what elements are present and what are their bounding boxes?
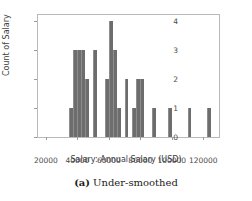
y-tick-label: 3: [164, 45, 178, 54]
y-tick-mark: [34, 21, 37, 22]
caption-text: Under-smoothed: [93, 177, 178, 188]
x-tick-mark: [109, 137, 110, 140]
figure-caption: (a)Under-smoothed: [0, 177, 252, 188]
y-tick-mark: [34, 137, 37, 138]
y-tick-label: 1: [164, 103, 178, 112]
y-axis-label: Count of Salary: [2, 14, 11, 76]
y-tick-mark: [34, 50, 37, 51]
x-tick-mark: [203, 137, 204, 140]
histogram-bar: [207, 108, 211, 137]
histogram-bar: [152, 108, 156, 137]
histogram-bar: [85, 79, 89, 137]
histogram-bar: [188, 108, 192, 137]
y-tick-mark: [34, 79, 37, 80]
histogram-bars: [38, 15, 219, 137]
y-tick-label: 2: [164, 74, 178, 83]
histogram-bar: [93, 50, 97, 137]
x-axis-label: Salary: Annual Salary (USD): [0, 155, 252, 164]
x-tick-mark: [46, 137, 47, 140]
x-tick-mark: [172, 137, 173, 140]
y-tick-mark: [34, 108, 37, 109]
x-tick-mark: [140, 137, 141, 140]
histogram-bar: [140, 79, 144, 137]
figure-histogram-under-smoothed: 01234 20000400006000080000100000120000 C…: [0, 0, 252, 201]
plot-area: 01234 20000400006000080000100000120000: [37, 14, 220, 138]
y-tick-label: 4: [164, 16, 178, 25]
histogram-bar: [117, 108, 121, 137]
histogram-bar: [125, 79, 129, 137]
caption-tag: (a): [74, 177, 90, 188]
x-tick-mark: [77, 137, 78, 140]
